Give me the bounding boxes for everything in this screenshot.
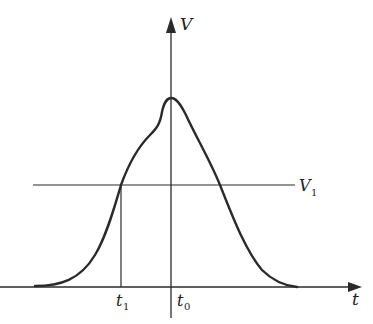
- waveform-diagram: V t V 1 t 1 t 0: [0, 0, 373, 324]
- t-axis-label: t: [352, 289, 359, 309]
- pulse-curve: [35, 98, 297, 287]
- t1-label-main: t: [116, 291, 123, 310]
- v-axis-arrow-icon: [166, 17, 176, 33]
- diagram-canvas: V t V 1 t 1 t 0: [0, 0, 373, 324]
- t0-label-main: t: [177, 291, 184, 310]
- v-axis: [166, 17, 176, 318]
- v-axis-label: V: [180, 14, 194, 34]
- t0-label-subscript: 0: [184, 301, 190, 312]
- threshold-label-subscript: 1: [311, 187, 317, 198]
- t0-label: t 0: [177, 291, 190, 312]
- t1-label-subscript: 1: [123, 301, 129, 312]
- threshold-label: V 1: [299, 176, 317, 198]
- t1-label: t 1: [116, 291, 129, 312]
